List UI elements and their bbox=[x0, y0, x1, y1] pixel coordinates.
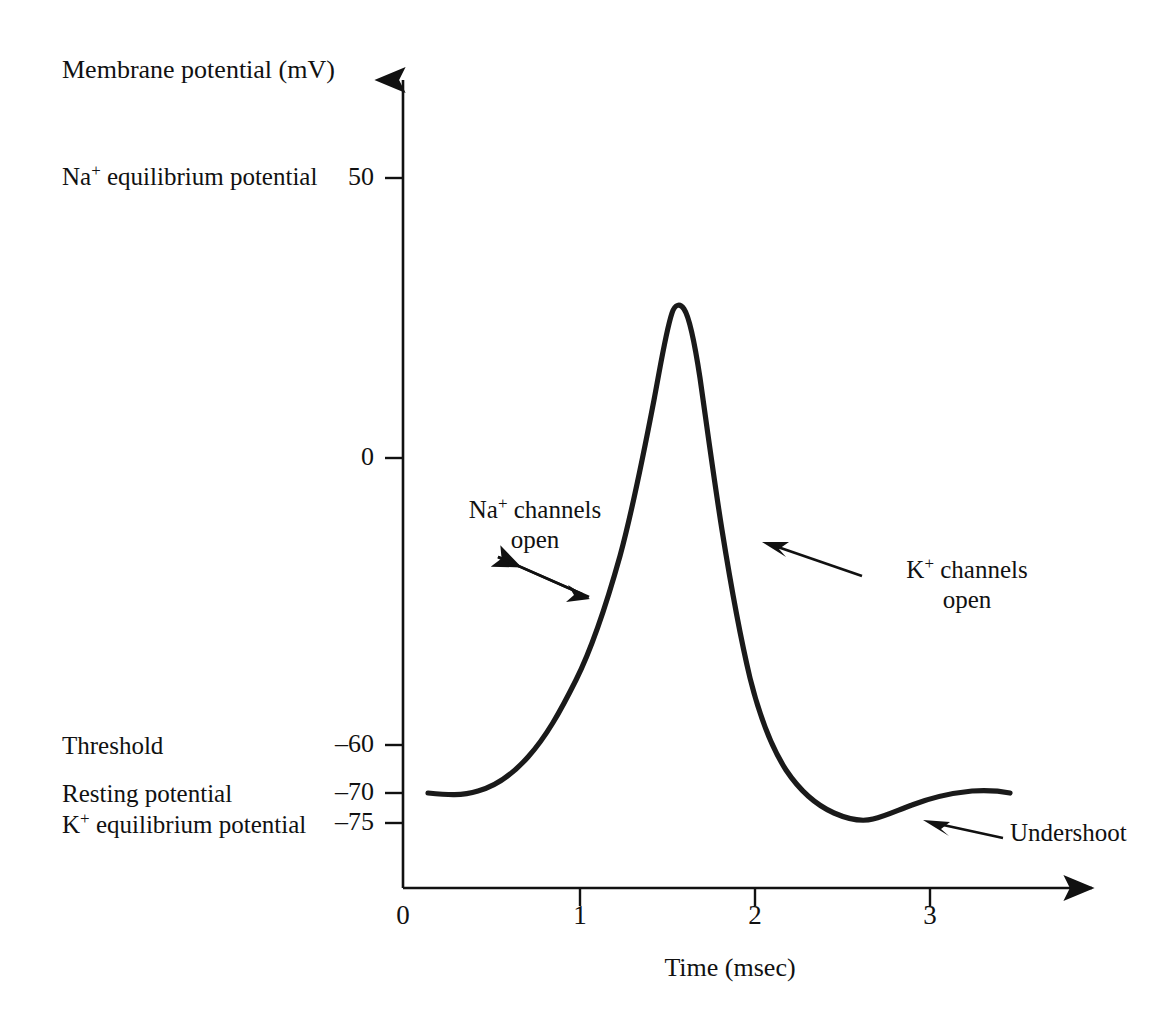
annotation-na-channels-open: Na+ channels open bbox=[440, 495, 630, 554]
annot-na-rest: channels bbox=[508, 496, 602, 523]
y-tick-label-50: 50 bbox=[304, 162, 374, 193]
label-threshold: Threshold bbox=[62, 731, 163, 761]
y-tick-label-minus-75: –75 bbox=[294, 807, 374, 838]
annot-na-line2: open bbox=[511, 526, 560, 553]
na-label-rest: equilibrium potential bbox=[101, 163, 318, 190]
annotation-k-channels-open: K+ channels open bbox=[872, 555, 1062, 614]
undershoot-arrow bbox=[923, 820, 1003, 838]
x-tick-label-3: 3 bbox=[910, 900, 950, 932]
annot-undershoot-text: Undershoot bbox=[1010, 819, 1127, 846]
annot-na-superscript: + bbox=[498, 494, 508, 513]
na-channels-open-arrow bbox=[498, 557, 590, 602]
k-label-rest: equilibrium potential bbox=[90, 811, 307, 838]
y-axis-title: Membrane potential (mV) bbox=[62, 55, 335, 86]
x-tick-label-0: 0 bbox=[383, 900, 423, 932]
label-na-equilibrium-potential: Na+ equilibrium potential bbox=[62, 162, 317, 192]
y-axis-ticks bbox=[385, 178, 403, 823]
y-tick-label-minus-70: –70 bbox=[294, 777, 374, 808]
annot-k-rest: channels bbox=[934, 556, 1028, 583]
x-tick-label-2: 2 bbox=[735, 900, 775, 932]
label-k-equilibrium-potential: K+ equilibrium potential bbox=[62, 810, 306, 840]
action-potential-figure: Membrane potential (mV) Na+ equilibrium … bbox=[0, 0, 1159, 1035]
annot-k-prefix: K bbox=[906, 556, 924, 583]
y-tick-label-0: 0 bbox=[304, 442, 374, 473]
threshold-text: Threshold bbox=[62, 732, 163, 759]
label-resting-potential: Resting potential bbox=[62, 779, 232, 809]
na-charge-superscript: + bbox=[91, 161, 101, 180]
annot-na-prefix: Na bbox=[469, 496, 498, 523]
annotation-undershoot: Undershoot bbox=[1010, 818, 1127, 848]
annot-k-line2: open bbox=[943, 586, 992, 613]
x-tick-label-1: 1 bbox=[560, 900, 600, 932]
k-symbol-prefix: K bbox=[62, 811, 80, 838]
k-channels-open-arrow bbox=[762, 542, 862, 576]
y-tick-label-minus-60: –60 bbox=[294, 729, 374, 760]
x-axis-title: Time (msec) bbox=[620, 953, 840, 984]
annot-k-superscript: + bbox=[924, 554, 934, 573]
k-charge-superscript: + bbox=[80, 809, 90, 828]
resting-potential-text: Resting potential bbox=[62, 780, 232, 807]
na-symbol-prefix: Na bbox=[62, 163, 91, 190]
